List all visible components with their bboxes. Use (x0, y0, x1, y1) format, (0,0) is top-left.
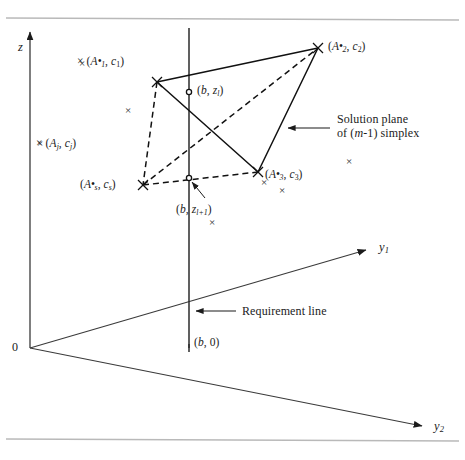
intersection-dot-zl (186, 89, 191, 94)
point-marker-x: × (279, 184, 285, 196)
y2-axis-label: y2 (434, 419, 444, 434)
annotation-solution-plane-line1: Solution plane (337, 112, 419, 126)
dashed-edge-As-A2 (143, 48, 318, 185)
annotation-solution-plane: Solution plane of (m-1) simplex (337, 112, 419, 140)
origin-label: 0 (12, 340, 18, 354)
annotation-solution-plane-line2: of (m-1) simplex (337, 126, 419, 140)
point-label-b-zl1: (b, zl+1) (176, 203, 212, 217)
sp-pre: of ( (337, 126, 354, 140)
b-zl1-leader (192, 182, 205, 198)
sp-post: -1) simplex (363, 126, 419, 140)
y1-axis (30, 250, 366, 348)
frame-top-rule (6, 18, 459, 20)
dashed-edge-A1-As (143, 82, 157, 185)
point-label-b-zl: (b, zl) (197, 84, 223, 98)
diagram-canvas (0, 0, 465, 460)
y1-axis-label-sub: 1 (385, 245, 389, 255)
point-label-b-zl1-sub: l+1 (196, 208, 207, 217)
vertex-label-As: (A•s, cs) (80, 178, 116, 192)
point-marker-x: × (125, 104, 131, 116)
vertex-label-A2-A: A (332, 40, 339, 52)
annotation-requirement-line: Requirement line (242, 304, 327, 318)
point-marker-x: × (209, 216, 215, 228)
vertex-label-A1-x: × (77, 55, 84, 67)
point-label-Aj-x: × (36, 137, 43, 149)
vertex-label-A1-A: A (91, 55, 98, 67)
y2-axis (30, 348, 422, 426)
vertex-label-A3-A: A (269, 168, 276, 180)
point-label-Aj: × (Aj, cj) (36, 137, 76, 151)
point-label-b-zero: (b, 0) (194, 336, 220, 350)
point-marker-x: × (346, 155, 352, 167)
sp-m: m (354, 126, 363, 140)
vertex-label-As-A: A (84, 178, 91, 190)
vertex-label-A2: (A•2, c2) (328, 40, 366, 54)
frame-bottom-rule (6, 439, 459, 441)
intersection-dot-zl1 (186, 175, 191, 180)
y1-axis-label: y1 (379, 240, 389, 255)
vertex-label-A3: (A•3, c3) (265, 168, 303, 182)
figure-root: × × × × × × × z y1 y2 0 × (A•1, c1) (A•2… (0, 0, 465, 460)
z-axis-label: z (18, 40, 23, 55)
dashed-edge-As-A3 (143, 172, 258, 185)
point-label-Aj-A: A (50, 137, 57, 149)
vertex-label-A1: × (A•1, c1) (77, 55, 124, 69)
y2-axis-label-sub: 2 (440, 424, 444, 434)
